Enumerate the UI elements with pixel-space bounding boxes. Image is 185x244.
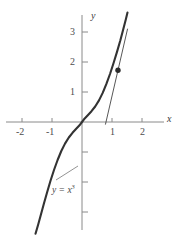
- x-tick-label-1: 1: [110, 127, 115, 137]
- cubic-function-figure: -2 -1 1 2 3 2 1 y x y = x3: [0, 0, 185, 244]
- y-tick-label-3: 3: [70, 27, 75, 37]
- curve-equation-exponent: 3: [72, 183, 75, 190]
- x-tick-label-neg1: -1: [46, 127, 54, 137]
- plot-canvas: [0, 0, 185, 244]
- x-axis-label: x: [167, 114, 171, 124]
- curve-equation-base: y = x: [52, 185, 72, 195]
- y-tick-label-1: 1: [70, 87, 75, 97]
- x-tick-label-neg2: -2: [16, 127, 24, 137]
- curve-equation-label: y = x3: [52, 184, 75, 196]
- y-tick-label-2: 2: [70, 57, 75, 67]
- y-axis-label: y: [91, 11, 95, 21]
- curve-label-leader-line: [56, 166, 78, 180]
- tangency-point-marker: [115, 68, 120, 73]
- x-tick-label-2: 2: [140, 127, 145, 137]
